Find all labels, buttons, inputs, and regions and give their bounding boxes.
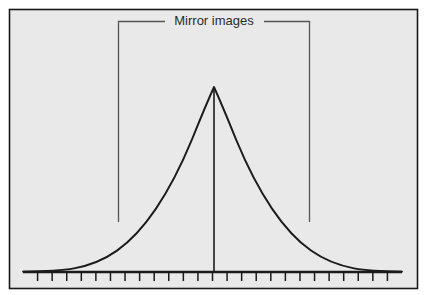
normal-distribution-figure: Mirror images: [0, 0, 428, 295]
mirror-images-label: Mirror images: [174, 13, 254, 28]
figure-container: Mirror images: [0, 0, 428, 295]
